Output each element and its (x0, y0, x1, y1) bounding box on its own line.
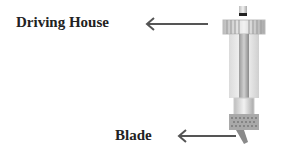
driving-house-label: Driving House (16, 14, 109, 31)
arrow-left-icon (144, 16, 210, 32)
blade-label: Blade (115, 127, 152, 144)
blade-holder-illustration (218, 4, 270, 148)
